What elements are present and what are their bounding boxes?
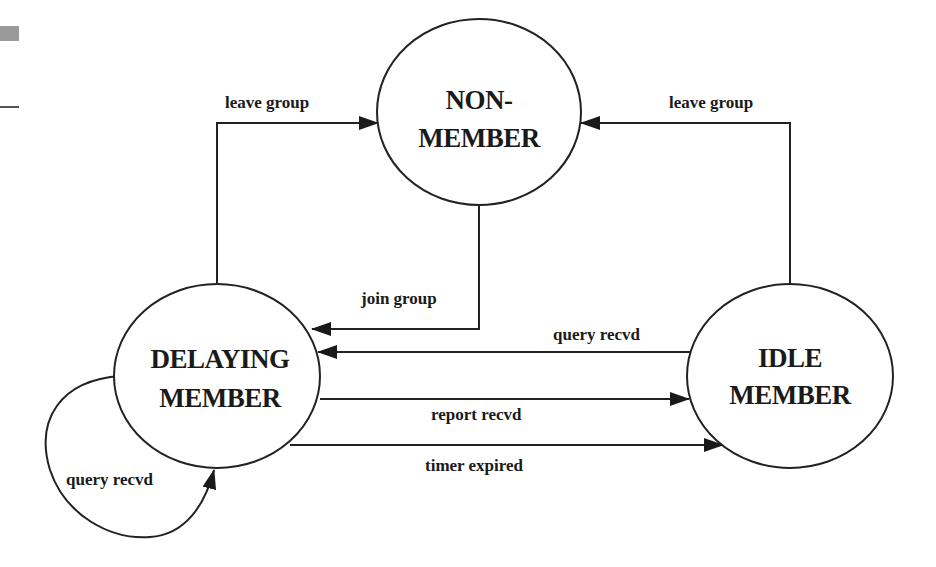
state-label-line2: MEMBER — [159, 383, 281, 413]
edge-label-report-recvd: report recvd — [431, 405, 522, 424]
state-label-line2: MEMBER — [418, 123, 540, 153]
edge-delaying-to-idle-timer: timer expired — [290, 445, 723, 475]
edge-idle-to-nonmember: leave group — [581, 93, 790, 284]
edge-label-leave-group-right: leave group — [669, 93, 753, 112]
edge-label-join-group: join group — [360, 289, 437, 308]
state-idle-member: IDLE MEMBER — [687, 284, 893, 468]
state-delaying-member: DELAYING MEMBER — [114, 284, 320, 468]
state-non-member: NON- MEMBER — [377, 19, 581, 205]
edge-label-query-recvd: query recvd — [553, 325, 641, 344]
state-label-line1: IDLE — [758, 343, 822, 373]
state-label-line2: MEMBER — [729, 380, 851, 410]
edge-nonmember-to-delaying: join group — [312, 204, 479, 329]
state-circle-idle-member — [687, 284, 893, 468]
state-circle-delaying-member — [114, 284, 320, 468]
edge-label-leave-group-left: leave group — [225, 93, 309, 112]
edge-delaying-to-idle-report: report recvd — [320, 399, 689, 424]
state-label-line1: DELAYING — [150, 344, 290, 374]
edge-delaying-to-nonmember: leave group — [217, 93, 378, 284]
edge-label-self-query-recvd: query recvd — [66, 470, 154, 489]
state-diagram: leave group leave group join group query… — [0, 0, 936, 567]
edge-label-timer-expired: timer expired — [425, 456, 524, 475]
arrow-leave-group-left — [217, 123, 378, 284]
arrow-join-group — [312, 204, 479, 329]
arrow-leave-group-right — [581, 123, 790, 284]
state-label-line1: NON- — [446, 85, 513, 115]
